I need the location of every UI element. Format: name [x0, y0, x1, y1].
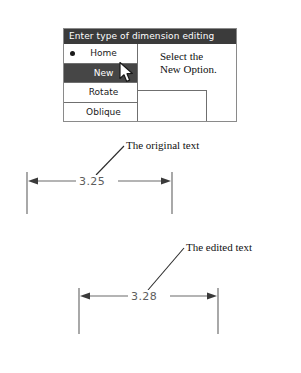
menu-item-new[interactable]: New [64, 64, 137, 84]
menu-item-home[interactable]: Home [64, 44, 137, 64]
menu-item-label: New [64, 68, 137, 78]
dimension-value-original: 3.25 [76, 175, 108, 188]
menu-title-bar: Enter type of dimension editing [64, 29, 236, 44]
menu-item-rotate[interactable]: Rotate [64, 83, 137, 103]
callout-edited-text: The edited text [186, 241, 252, 254]
menu-item-label: Oblique [64, 107, 137, 117]
menu-preview-box [138, 90, 207, 121]
dimension-edit-menu-panel[interactable]: Enter type of dimension editing Home New… [63, 28, 237, 122]
menu-option-list[interactable]: Home New Rotate Oblique [64, 44, 138, 121]
dimension-value-edited: 3.28 [128, 290, 160, 303]
figure-canvas: Enter type of dimension editing Home New… [0, 0, 301, 373]
menu-item-label: Rotate [64, 87, 137, 97]
radio-dot-icon [70, 51, 75, 56]
callout-select-new-option: Select the New Option. [160, 50, 217, 75]
menu-item-oblique[interactable]: Oblique [64, 103, 137, 122]
callout-original-text: The original text [126, 139, 199, 152]
